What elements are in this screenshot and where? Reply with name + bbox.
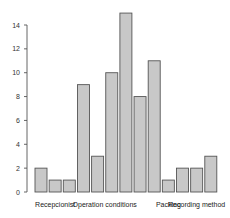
bar bbox=[191, 168, 203, 192]
x-group-label: Recepcionist bbox=[35, 201, 75, 209]
bar bbox=[63, 180, 75, 192]
y-tick-label: 0 bbox=[16, 189, 20, 196]
y-tick-label: 14 bbox=[12, 22, 20, 29]
bar bbox=[106, 73, 118, 192]
x-group-label: Operation conditions bbox=[73, 201, 138, 209]
x-group-label: Recording method bbox=[168, 201, 225, 209]
bar bbox=[35, 168, 47, 192]
bar bbox=[162, 180, 174, 192]
y-tick-label: 10 bbox=[12, 69, 20, 76]
y-axis: 02468101214 bbox=[12, 22, 27, 196]
y-tick-label: 12 bbox=[12, 45, 20, 52]
y-tick-label: 4 bbox=[16, 141, 20, 148]
bar bbox=[77, 85, 89, 192]
bar bbox=[148, 61, 160, 192]
y-tick-label: 8 bbox=[16, 93, 20, 100]
bar bbox=[92, 156, 104, 192]
bar bbox=[205, 156, 217, 192]
x-axis-labels: RecepcionistOperation conditionsPackingR… bbox=[35, 201, 225, 209]
bar bbox=[177, 168, 189, 192]
bar bbox=[120, 13, 132, 192]
y-tick-label: 6 bbox=[16, 117, 20, 124]
bar bbox=[49, 180, 61, 192]
y-tick-label: 2 bbox=[16, 165, 20, 172]
bar bbox=[134, 97, 146, 192]
bar-chart: 02468101214 RecepcionistOperation condit… bbox=[0, 0, 230, 218]
bars bbox=[35, 13, 217, 192]
